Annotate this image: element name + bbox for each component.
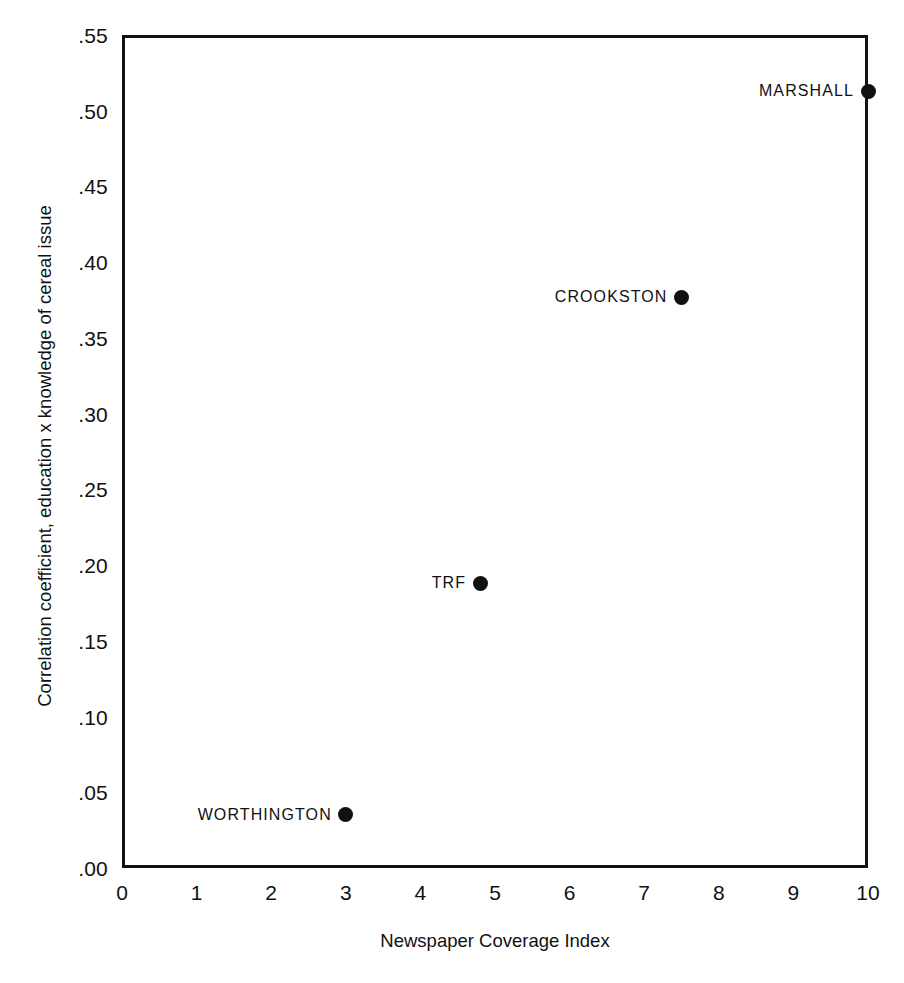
x-axis-title: Newspaper Coverage Index (122, 930, 868, 952)
x-tick-5: 5 (465, 882, 525, 903)
scatter-chart: .55 .50 .45 .40 .35 .30 .25 .20 .15 .10 … (0, 0, 904, 983)
y-tick-0: .55 (56, 25, 108, 46)
x-tick-10: 10 (838, 882, 898, 903)
y-tick-6: .25 (56, 479, 108, 500)
x-tick-2: 2 (241, 882, 301, 903)
data-point-trf[interactable] (473, 576, 488, 591)
data-point-marshall[interactable] (861, 84, 876, 99)
y-tick-11: .00 (56, 858, 108, 879)
data-point-label-marshall: MARSHALL (759, 83, 854, 99)
y-tick-9: .10 (56, 706, 108, 727)
y-tick-7: .20 (56, 555, 108, 576)
y-tick-2: .45 (56, 176, 108, 197)
y-tick-3: .40 (56, 252, 108, 273)
data-point-label-worthington: WORTHINGTON (198, 807, 332, 823)
y-tick-1: .50 (56, 100, 108, 121)
y-tick-4: .35 (56, 327, 108, 348)
x-tick-7: 7 (614, 882, 674, 903)
y-axis-tick-labels: .55 .50 .45 .40 .35 .30 .25 .20 .15 .10 … (52, 0, 108, 983)
data-point-crookston[interactable] (674, 290, 689, 305)
x-tick-3: 3 (316, 882, 376, 903)
x-tick-8: 8 (689, 882, 749, 903)
y-axis-title: Correlation coefficient, education x kno… (34, 106, 56, 806)
x-tick-9: 9 (763, 882, 823, 903)
x-tick-6: 6 (540, 882, 600, 903)
x-tick-4: 4 (390, 882, 450, 903)
plot-area-frame (122, 35, 868, 868)
x-tick-0: 0 (92, 882, 152, 903)
x-tick-1: 1 (167, 882, 227, 903)
data-point-label-crookston: CROOKSTON (555, 289, 668, 305)
y-tick-8: .15 (56, 630, 108, 651)
y-tick-5: .30 (56, 403, 108, 424)
y-tick-10: .05 (56, 782, 108, 803)
data-point-label-trf: TRF (432, 575, 466, 591)
